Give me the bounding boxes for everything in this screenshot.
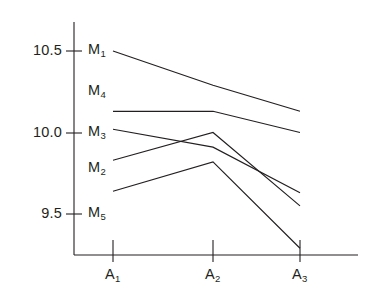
series-label-m1-subscript: 1 (100, 48, 105, 59)
series-label-m3-base: M (88, 123, 100, 139)
series-label-m2-base: M (88, 159, 100, 175)
series-line-m4 (113, 111, 300, 132)
x-tick-label-a1-base: A (105, 266, 115, 282)
series-line-m1 (113, 51, 300, 111)
series-label-m5-subscript: 5 (100, 211, 105, 222)
series-label-m1: M1 (88, 41, 105, 57)
series-label-m5: M5 (88, 204, 105, 220)
x-tick-label-a1: A1 (105, 266, 120, 282)
series-label-m4-base: M (88, 82, 100, 98)
x-tick-label-a3-subscript: 3 (302, 273, 307, 284)
x-tick-label-a1-subscript: 1 (115, 273, 120, 284)
series-label-m5-base: M (88, 204, 100, 220)
series-label-m1-base: M (88, 41, 100, 57)
x-tick-label-a3-base: A (292, 266, 302, 282)
y-tick-label-9-5: 9.5 (12, 205, 62, 221)
x-tick-label-a2-base: A (205, 266, 215, 282)
series-label-m2-subscript: 2 (100, 166, 105, 177)
x-tick-label-a3: A3 (292, 266, 307, 282)
x-tick-label-a2: A2 (205, 266, 220, 282)
series-label-m2: M2 (88, 159, 105, 175)
series-line-m5 (113, 162, 300, 248)
line-chart: 10.5 10.0 9.5 A1 A2 A3 M1 M4 M3 M2 M5 (0, 0, 381, 300)
series-label-m3-subscript: 3 (100, 130, 105, 141)
y-tick-label-10-5: 10.5 (12, 42, 62, 58)
y-tick-label-10-0: 10.0 (12, 124, 62, 140)
x-tick-label-a2-subscript: 2 (215, 273, 220, 284)
series-line-m2 (113, 133, 300, 206)
series-label-m4-subscript: 4 (100, 89, 105, 100)
series-label-m3: M3 (88, 123, 105, 139)
series-label-m4: M4 (88, 82, 105, 98)
